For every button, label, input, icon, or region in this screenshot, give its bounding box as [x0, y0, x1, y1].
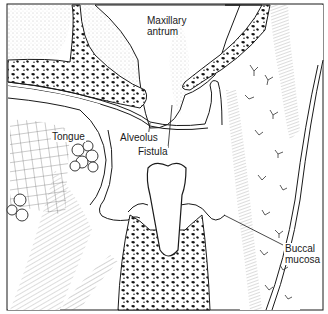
- label-fistula: Fistula: [137, 146, 168, 157]
- label-maxillary-antrum: Maxillary antrum: [147, 15, 186, 37]
- oro-antral-fistula-illustration: Maxillary antrum Tongue Alveolus Fistula…: [0, 0, 328, 314]
- label-maxillary-antrum-line2: antrum: [147, 26, 186, 37]
- label-buccal-mucosa-line1: Buccal: [285, 243, 320, 254]
- label-tongue: Tongue: [51, 131, 86, 142]
- label-maxillary-antrum-line1: Maxillary: [147, 15, 186, 26]
- label-buccal-mucosa-line2: mucosa: [285, 254, 320, 265]
- anatomy-drawing: [0, 0, 328, 314]
- label-alveolus: Alveolus: [119, 132, 159, 143]
- label-buccal-mucosa: Buccal mucosa: [284, 243, 321, 265]
